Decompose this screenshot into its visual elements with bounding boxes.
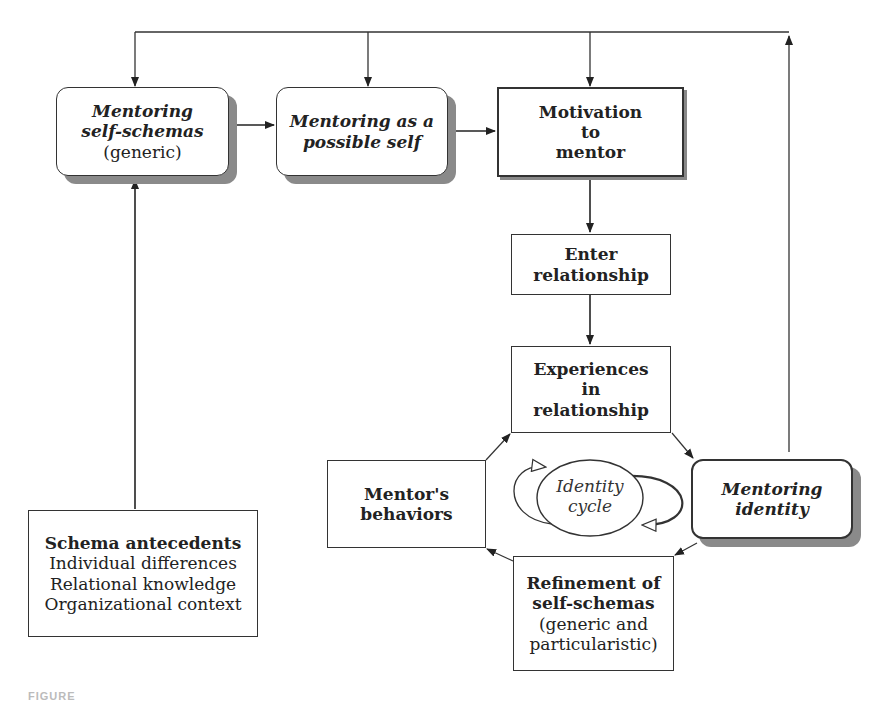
- node-label: Motivation: [539, 102, 642, 122]
- node-label: identity: [735, 499, 809, 519]
- node-motivation-to-mentor: Motivation to mentor: [497, 87, 684, 177]
- node-label: Mentoring: [92, 101, 193, 121]
- node-mentors-behaviors: Mentor's behaviors: [327, 460, 486, 548]
- node-label: to: [581, 122, 600, 142]
- node-label: in: [582, 379, 601, 399]
- cycle-label: cycle: [540, 496, 640, 516]
- node-item: Individual differences: [49, 553, 237, 573]
- node-label: mentor: [556, 142, 625, 162]
- node-sublabel: particularistic): [529, 634, 657, 654]
- node-label: Experiences: [533, 359, 648, 379]
- node-label: Mentoring: [722, 479, 823, 499]
- node-label: Enter: [565, 244, 618, 264]
- node-experiences-in-relationship: Experiences in relationship: [511, 346, 671, 433]
- node-label: Refinement of: [526, 573, 660, 593]
- figure-caption: FIGURE: [28, 690, 76, 702]
- node-label: Mentor's: [364, 484, 449, 504]
- node-label: behaviors: [360, 504, 452, 524]
- node-mentoring-possible-self: Mentoring as a possible self: [276, 87, 448, 176]
- node-label: possible self: [303, 132, 421, 152]
- node-sublabel: (generic): [103, 142, 181, 162]
- node-schema-antecedents: Schema antecedents Individual difference…: [28, 510, 258, 637]
- node-label: Schema antecedents: [45, 533, 241, 553]
- node-mentoring-self-schemas: Mentoring self-schemas (generic): [56, 87, 229, 176]
- node-label: self-schemas: [532, 593, 654, 613]
- node-sublabel: (generic and: [539, 614, 648, 634]
- node-label: Mentoring as a: [290, 111, 434, 131]
- node-item: Organizational context: [44, 594, 241, 614]
- node-refinement-of-self-schemas: Refinement of self-schemas (generic and …: [513, 556, 674, 671]
- node-mentoring-identity: Mentoring identity: [691, 459, 853, 539]
- node-enter-relationship: Enter relationship: [511, 234, 671, 295]
- node-label: relationship: [533, 400, 649, 420]
- node-label: relationship: [533, 265, 649, 285]
- node-item: Relational knowledge: [50, 574, 236, 594]
- identity-cycle-label: Identity cycle: [540, 476, 640, 516]
- cycle-label: Identity: [540, 476, 640, 496]
- node-label: self-schemas: [81, 121, 203, 141]
